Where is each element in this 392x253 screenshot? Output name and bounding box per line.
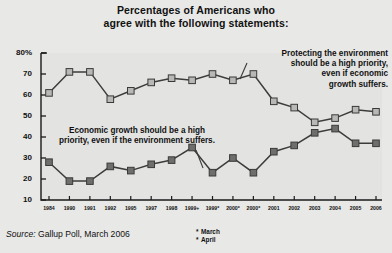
y-axis-tick-label: 20 [6, 174, 32, 183]
callout-environment: Protecting the environment should be a h… [228, 49, 388, 90]
data-point-economy [291, 142, 298, 149]
y-axis-tick-label: 60 [6, 90, 32, 99]
y-axis-tick-label: 50 [6, 111, 32, 120]
data-point-environment [66, 69, 73, 76]
data-point-economy [107, 163, 114, 170]
data-point-environment [311, 119, 318, 126]
data-point-economy [230, 155, 237, 162]
data-point-environment [332, 115, 339, 122]
data-point-environment [271, 98, 278, 105]
y-axis-tick-label: 10 [6, 195, 32, 204]
callout-economy-line2: priority, even if the environment suffer… [44, 136, 230, 146]
data-point-environment [107, 96, 114, 103]
data-point-economy [271, 148, 278, 155]
chart-figure: Percentages of Americans who agree with … [0, 0, 392, 253]
data-point-economy [250, 169, 257, 176]
data-point-economy [46, 159, 53, 166]
data-point-economy [209, 169, 216, 176]
data-point-economy [66, 178, 73, 185]
data-point-environment [291, 104, 298, 111]
callout-environment-line3: even if economic [228, 69, 388, 79]
chart-legend: *March*April [196, 228, 220, 244]
legend-label: March [201, 228, 220, 235]
source-text: Gallup Poll, March 2006 [36, 229, 130, 239]
data-point-economy [311, 130, 318, 137]
legend-item: *April [196, 236, 220, 244]
y-axis-tick-label: 80% [2, 48, 32, 57]
x-axis-tick-label: 2006 [363, 205, 389, 211]
callout-environment-line1: Protecting the environment [228, 49, 388, 59]
data-point-environment [148, 79, 155, 86]
data-point-economy [352, 140, 359, 147]
callout-economy-line1: Economic growth should be a high [44, 126, 230, 136]
data-point-economy [148, 161, 155, 168]
data-point-economy [87, 178, 94, 185]
source-note: Source: Gallup Poll, March 2006 [6, 229, 130, 239]
y-axis-tick-label: 70 [6, 69, 32, 78]
data-point-economy [128, 167, 135, 174]
legend-label: April [201, 236, 216, 243]
data-point-environment [46, 90, 53, 97]
data-point-economy [373, 140, 380, 147]
data-point-environment [168, 75, 175, 82]
callout-economy: Economic growth should be a high priorit… [44, 126, 230, 146]
legend-item: *March [196, 228, 220, 236]
data-point-environment [352, 106, 359, 113]
data-point-environment [209, 71, 216, 78]
y-axis-tick-label: 40 [6, 132, 32, 141]
source-label: Source: [6, 229, 36, 239]
data-point-economy [332, 125, 339, 132]
callout-environment-line4: growth suffers. [228, 80, 388, 90]
data-point-environment [373, 109, 380, 116]
data-point-environment [128, 88, 135, 95]
y-axis-tick-label: 30 [6, 153, 32, 162]
data-point-environment [87, 69, 94, 76]
data-point-environment [189, 77, 196, 84]
callout-environment-line2: should be a high priority, [228, 59, 388, 69]
data-point-economy [168, 157, 175, 164]
